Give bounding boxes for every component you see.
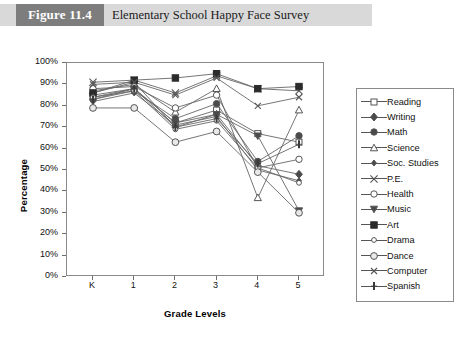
figure-header: Figure 11.4 Elementary School Happy Face… xyxy=(0,0,466,30)
y-tick-label: 20% xyxy=(12,227,58,237)
legend-item[interactable]: Health xyxy=(357,186,453,201)
legend-marker-icon xyxy=(361,249,387,263)
series-markers xyxy=(89,81,302,201)
series-line xyxy=(93,87,299,168)
y-tick-label: 80% xyxy=(12,99,58,109)
legend-item[interactable]: Dance xyxy=(357,248,453,263)
legend-marker-icon xyxy=(361,202,387,216)
y-tick-label: 90% xyxy=(12,77,58,87)
x-tick-label: 4 xyxy=(242,280,272,290)
y-tick-mark xyxy=(62,276,66,277)
y-tick-label: 100% xyxy=(12,56,58,66)
legend-label: P.E. xyxy=(387,172,403,186)
legend-item[interactable]: Soc. Studies xyxy=(357,156,453,171)
legend-item[interactable]: Spanish xyxy=(357,279,453,294)
legend-marker-icon xyxy=(361,172,387,186)
figure-title: Elementary School Happy Face Survey xyxy=(112,4,309,26)
plot-canvas xyxy=(67,63,325,277)
legend-marker-icon xyxy=(361,279,387,293)
series-markers xyxy=(90,88,302,165)
legend-marker-icon xyxy=(361,156,387,170)
series-line xyxy=(93,89,299,211)
legend-label: Music xyxy=(387,202,411,216)
legend-label: Spanish xyxy=(387,279,420,293)
y-tick-label: 60% xyxy=(12,142,58,152)
legend-marker-icon xyxy=(361,125,387,139)
x-tick-label: 2 xyxy=(159,280,189,290)
y-tick-label: 0% xyxy=(12,270,58,280)
legend-item[interactable]: Music xyxy=(357,202,453,217)
y-tick-label: 10% xyxy=(12,249,58,259)
series-line xyxy=(93,89,299,164)
legend-label: Soc. Studies xyxy=(387,156,439,170)
x-tick-label: K xyxy=(77,280,107,290)
legend-label: Computer xyxy=(387,264,427,278)
series-line xyxy=(93,82,299,174)
series-markers xyxy=(89,86,302,215)
legend-label: Writing xyxy=(387,110,415,124)
legend-marker-icon xyxy=(361,141,387,155)
series-markers xyxy=(90,85,302,168)
legend-marker-icon xyxy=(361,95,387,109)
x-tick-label: 5 xyxy=(283,280,313,290)
plot-frame xyxy=(66,62,324,276)
legend-item[interactable]: Computer xyxy=(357,263,453,278)
legend-marker-icon xyxy=(361,233,387,247)
figure-container: Figure 11.4 Elementary School Happy Face… xyxy=(0,0,466,338)
legend-item[interactable]: P.E. xyxy=(357,171,453,186)
legend-label: Math xyxy=(387,125,407,139)
legend-item[interactable]: Math xyxy=(357,125,453,140)
legend-marker-icon xyxy=(361,264,387,278)
y-tick-label: 50% xyxy=(12,163,58,173)
chart-legend: ReadingWritingMathScienceSoc. StudiesP.E… xyxy=(356,88,454,302)
legend-item[interactable]: Writing xyxy=(357,109,453,124)
y-tick-label: 30% xyxy=(12,206,58,216)
x-tick-label: 3 xyxy=(201,280,231,290)
legend-label: Drama xyxy=(387,233,415,247)
chart-area: Percentage 0%10%20%30%40%50%60%70%80%90%… xyxy=(0,30,466,338)
series-line xyxy=(93,108,299,213)
legend-label: Reading xyxy=(387,95,421,109)
x-axis-title: Grade Levels xyxy=(66,308,324,319)
legend-marker-icon xyxy=(361,110,387,124)
x-tick-label: 1 xyxy=(118,280,148,290)
series-markers xyxy=(90,105,303,217)
legend-item[interactable]: Science xyxy=(357,140,453,155)
y-tick-label: 70% xyxy=(12,120,58,130)
legend-marker-icon xyxy=(361,218,387,232)
legend-item[interactable]: Drama xyxy=(357,233,453,248)
legend-item[interactable]: Art xyxy=(357,217,453,232)
legend-item[interactable]: Reading xyxy=(357,94,453,109)
legend-label: Dance xyxy=(387,249,414,263)
legend-label: Science xyxy=(387,141,420,155)
y-tick-label: 40% xyxy=(12,184,58,194)
series-line xyxy=(93,89,299,142)
legend-label: Art xyxy=(387,218,399,232)
legend-label: Health xyxy=(387,187,414,201)
legend-marker-icon xyxy=(361,187,387,201)
figure-badge-label: Figure 11.4 xyxy=(16,4,104,26)
